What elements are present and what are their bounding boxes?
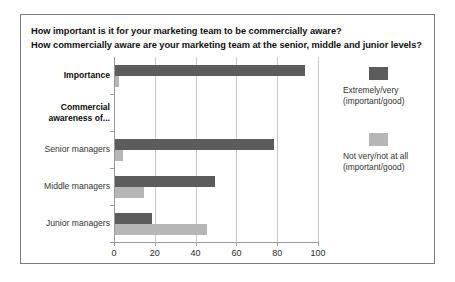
chart-plot-region: ImportanceCommercialawareness of...Senio… <box>21 55 331 260</box>
bar <box>115 76 119 87</box>
bar <box>115 139 274 150</box>
x-axis-tick-label: 0 <box>111 248 116 258</box>
chart-title: How important is it for your marketing t… <box>31 24 429 52</box>
legend-label-line-2: (important/good) <box>343 96 447 107</box>
category-label-line: Junior managers <box>22 218 110 229</box>
x-axis-tick-label: 20 <box>150 248 160 258</box>
chart-title-line-1: How important is it for your marketing t… <box>31 24 429 38</box>
legend-swatch-light-icon <box>369 133 388 146</box>
x-axis-tick <box>277 242 278 246</box>
legend-item-extremely-very: Extremely/very (important/good) <box>343 67 447 107</box>
plot-area: 020406080100 <box>114 57 318 242</box>
category-label-line: Senior managers <box>22 144 110 155</box>
chart-legend: Extremely/very (important/good) Not very… <box>343 67 447 199</box>
x-axis-tick <box>318 242 319 246</box>
category-label-line: Commercial <box>22 102 110 113</box>
category-axis-tick <box>110 94 114 95</box>
legend-swatch-dark-icon <box>369 67 388 80</box>
bar <box>115 213 152 224</box>
legend-label-line-1: Not very/not at all <box>343 151 447 162</box>
chart-title-line-2: How commercially aware are your marketin… <box>31 38 429 52</box>
category-label-line: Middle managers <box>22 181 110 192</box>
x-axis-tick-label: 100 <box>310 248 325 258</box>
category-label: Middle managers <box>22 181 110 192</box>
bar <box>115 224 207 235</box>
legend-label-line-1: Extremely/very <box>343 85 447 96</box>
category-label: Senior managers <box>22 144 110 155</box>
category-label-line: Importance <box>22 70 110 81</box>
category-axis-tick <box>110 131 114 132</box>
legend-item-not-very: Not very/not at all (important/good) <box>343 133 447 173</box>
x-axis-tick-label: 60 <box>231 248 241 258</box>
bar <box>115 187 144 198</box>
x-axis-tick <box>196 242 197 246</box>
category-label: Commercialawareness of... <box>22 102 110 124</box>
category-axis-tick <box>110 205 114 206</box>
category-axis-tick <box>110 168 114 169</box>
category-label: Importance <box>22 70 110 81</box>
category-axis-labels: ImportanceCommercialawareness of...Senio… <box>21 57 110 242</box>
bar <box>115 65 305 76</box>
x-axis-tick <box>155 242 156 246</box>
bar <box>115 150 123 161</box>
category-axis-tick <box>110 242 114 243</box>
category-label: Junior managers <box>22 218 110 229</box>
gridline <box>318 57 319 242</box>
x-axis-line <box>114 242 319 243</box>
chart-frame: How important is it for your marketing t… <box>20 14 435 264</box>
x-axis-tick <box>236 242 237 246</box>
gridline <box>277 57 278 242</box>
x-axis-tick-label: 80 <box>272 248 282 258</box>
legend-label-line-2: (important/good) <box>343 162 447 173</box>
x-axis-tick-label: 40 <box>191 248 201 258</box>
category-label-line: awareness of... <box>22 113 110 124</box>
bar <box>115 176 215 187</box>
x-axis-tick <box>114 242 115 246</box>
